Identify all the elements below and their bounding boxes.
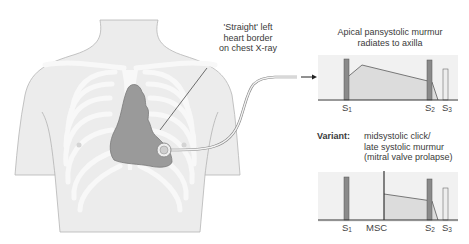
annotation-line: on chest X-ray (210, 43, 286, 54)
phonocardiogram-bottom (318, 171, 458, 222)
s2-bar (427, 60, 432, 100)
s1-bar (344, 177, 349, 220)
tick-s2: S2 (425, 223, 435, 235)
tick-s3: S3 (442, 103, 452, 115)
heart-border-annotation: 'Straight' left heart border on chest X-… (210, 22, 286, 54)
tick-s2: S2 (425, 103, 435, 115)
variant-label: Variant: (317, 131, 350, 142)
title-line: radiates to axilla (326, 38, 454, 49)
annotation-line: 'Straight' left (210, 22, 286, 33)
top-chart-title: Apical pansystolic murmur radiates to ax… (326, 27, 454, 48)
arrow-right-icon (301, 75, 317, 80)
s3-bar (443, 69, 448, 100)
tick-s3: S3 (442, 223, 452, 235)
tick-s1: S1 (342, 223, 352, 235)
tick-s1: S1 (342, 103, 352, 115)
tick-msc: MSC (366, 223, 387, 233)
s1-bar (344, 59, 349, 100)
s3-bar (443, 188, 448, 220)
desc-line: (mitral valve prolapse) (364, 152, 453, 163)
phonocardiogram-top (318, 55, 458, 100)
s2-bar (427, 179, 432, 220)
variant-description: midsystolic click/ late systolic murmur … (364, 131, 453, 163)
desc-line: late systolic murmur (364, 142, 453, 153)
desc-line: midsystolic click/ (364, 131, 453, 142)
annotation-line: heart border (210, 33, 286, 44)
title-line: Apical pansystolic murmur (326, 27, 454, 38)
diagram: 'Straight' left heart border on chest X-… (0, 0, 469, 244)
